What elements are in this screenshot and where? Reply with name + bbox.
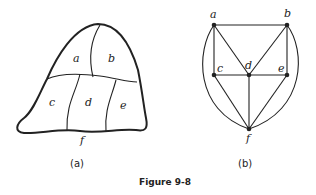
map-divider-c-d: [67, 74, 80, 130]
region-label-b: b: [108, 52, 115, 65]
caption-a: (a): [70, 158, 84, 169]
figure-9-8: a b c d e f (a) a b c d e f (b) Figure: [0, 0, 316, 195]
vertex-e: [285, 73, 290, 78]
region-label-e: e: [120, 99, 127, 112]
vertex-label-f: f: [245, 132, 252, 145]
vertex-label-e: e: [278, 62, 285, 75]
figure-title: Figure 9-8: [139, 177, 191, 187]
map-outline: [17, 24, 146, 133]
vertex-c: [212, 73, 217, 78]
map-divider-d-e: [106, 80, 116, 132]
edge-a-f-curve: [203, 25, 249, 129]
region-label-f: f: [79, 134, 86, 147]
edge-e-f: [249, 75, 287, 129]
vertex-label-b: b: [284, 7, 291, 20]
region-label-c: c: [49, 96, 55, 109]
vertex-label-c: c: [217, 62, 223, 75]
vertex-label-a: a: [210, 8, 217, 21]
vertex-label-d: d: [245, 59, 252, 72]
panel-b-graph: [203, 25, 299, 129]
caption-b: (b): [238, 158, 252, 169]
vertex-b: [285, 23, 290, 28]
vertex-d: [247, 73, 252, 78]
panel-a-labels: a b c d e f: [49, 52, 127, 147]
panel-a-map: [17, 24, 146, 133]
map-divider-horizontal: [47, 74, 137, 82]
edge-b-f-curve: [249, 25, 298, 129]
region-label-a: a: [73, 52, 80, 65]
region-label-d: d: [85, 96, 92, 109]
map-divider-a-b: [91, 25, 100, 77]
vertex-a: [212, 23, 217, 28]
vertex-f: [247, 127, 252, 132]
